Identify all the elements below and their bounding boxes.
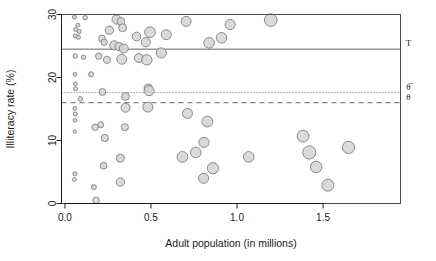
data-point-bubble bbox=[116, 178, 124, 186]
data-point-bubble bbox=[132, 32, 141, 41]
data-point-bubble bbox=[121, 124, 128, 131]
data-point-bubble bbox=[101, 134, 108, 141]
data-point-bubble bbox=[181, 16, 191, 26]
theta-label: θ bbox=[406, 92, 410, 102]
data-point-bubble bbox=[264, 14, 277, 27]
chart-canvas: 0.00.51.01.5 0102030 Tθ̅θ Adult populati… bbox=[0, 0, 436, 261]
x-axis-tick-label: 0.0 bbox=[58, 212, 72, 223]
data-point-bubble bbox=[204, 38, 215, 49]
data-point-bubble bbox=[100, 162, 107, 169]
data-point-bubble bbox=[73, 106, 77, 110]
data-point-bubble bbox=[77, 29, 81, 33]
data-point-bubble bbox=[73, 82, 77, 86]
data-point-bubble bbox=[207, 163, 218, 174]
data-point-bubble bbox=[73, 130, 76, 133]
data-point-bubble bbox=[83, 15, 87, 19]
data-point-bubble bbox=[119, 44, 128, 53]
data-point-bubble bbox=[142, 55, 152, 65]
data-point-bubble bbox=[225, 19, 235, 29]
data-point-bubble bbox=[73, 73, 77, 77]
data-point-bubble bbox=[99, 89, 106, 96]
data-point-bubble bbox=[310, 161, 322, 173]
illiteracy-vs-population-scatter-plot: 0.00.51.01.5 0102030 Tθ̅θ Adult populati… bbox=[0, 0, 436, 261]
data-point-bubble bbox=[202, 116, 213, 127]
y-axis-tick-label: 0 bbox=[47, 200, 58, 206]
data-point-bubble bbox=[89, 72, 94, 77]
data-point-bubble bbox=[145, 27, 156, 38]
data-point-bubble bbox=[182, 108, 192, 118]
data-point-bubble bbox=[297, 130, 309, 142]
data-point-bubble bbox=[76, 35, 80, 39]
data-point-bubble bbox=[103, 56, 110, 63]
data-point-bubble bbox=[322, 179, 334, 191]
y-axis-tick-label: 10 bbox=[47, 135, 58, 147]
data-point-bubble bbox=[144, 86, 154, 96]
data-point-bubble bbox=[73, 119, 77, 123]
data-point-bubble bbox=[143, 102, 153, 112]
data-point-bubble bbox=[161, 30, 171, 40]
data-point-bubble bbox=[101, 39, 107, 45]
data-point-bubble bbox=[243, 152, 254, 163]
data-point-bubble bbox=[93, 197, 100, 204]
data-point-bubble bbox=[117, 54, 127, 64]
data-point-bubble bbox=[76, 23, 80, 27]
data-point-bubble bbox=[119, 24, 127, 32]
data-point-bubble bbox=[199, 173, 209, 183]
data-point-bubble bbox=[81, 55, 85, 59]
x-axis-tick-label: 0.5 bbox=[144, 212, 158, 223]
data-point-bubble bbox=[190, 147, 201, 158]
data-point-bubble bbox=[72, 15, 76, 19]
data-point-bubble bbox=[156, 48, 166, 58]
x-axis-tick-label: 1.5 bbox=[316, 212, 330, 223]
data-point-bubble bbox=[116, 154, 124, 162]
data-point-bubble bbox=[216, 33, 227, 44]
y-axis-tick-label: 20 bbox=[47, 72, 58, 84]
data-point-bubble bbox=[199, 137, 209, 147]
data-point-bubble bbox=[303, 146, 316, 159]
data-point-bubble bbox=[95, 53, 101, 59]
data-point-bubble bbox=[78, 97, 83, 102]
x-axis-tick-label: 1.0 bbox=[230, 212, 244, 223]
data-point-bubble bbox=[74, 87, 78, 91]
data-point-bubble bbox=[141, 38, 150, 47]
data-point-bubble bbox=[121, 103, 130, 112]
tau-label: T bbox=[406, 38, 412, 48]
data-point-bubble bbox=[105, 26, 113, 34]
data-point-bubble bbox=[91, 185, 96, 190]
data-point-bubble bbox=[73, 178, 77, 182]
x-axis-title: Adult population (in millions) bbox=[165, 237, 296, 249]
data-point-bubble bbox=[122, 93, 130, 101]
data-point-bubble bbox=[73, 172, 77, 176]
data-point-bubble bbox=[342, 141, 354, 153]
data-point-bubble bbox=[73, 112, 77, 116]
data-point-bubble bbox=[177, 151, 188, 162]
y-axis-tick-label: 30 bbox=[47, 9, 58, 21]
y-axis-title: Illiteracy rate (%) bbox=[4, 70, 16, 149]
data-point-bubble bbox=[73, 54, 77, 58]
data-point-bubble bbox=[98, 122, 104, 128]
